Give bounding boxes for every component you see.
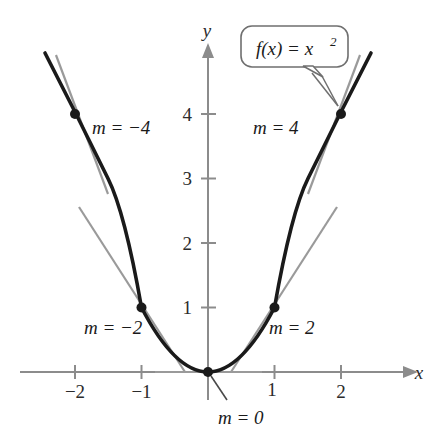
slope-label-m-neg2: m = −2 <box>84 317 143 338</box>
point-x-0-y-0 <box>203 367 213 377</box>
x-tick-label--2: −2 <box>65 381 85 402</box>
slope-label-m-pos4: m = 4 <box>253 117 299 138</box>
point-x--2-y-4 <box>70 109 80 119</box>
slope-label-m-zero: m = 0 <box>218 407 264 428</box>
y-tick-label-3: 3 <box>183 168 193 189</box>
slope-label-m-pos2: m = 2 <box>269 317 315 338</box>
y-tick-label-2: 2 <box>183 233 193 254</box>
x-tick-label-2: 2 <box>336 381 346 402</box>
y-axis-label: y <box>201 20 212 41</box>
x-axis-label: x <box>414 362 424 383</box>
y-tick-label-4: 4 <box>183 104 193 125</box>
callout-function-exponent: 2 <box>330 34 337 49</box>
point-x--1-y-1 <box>137 303 147 313</box>
x-tick-label-1: 1 <box>267 379 277 400</box>
slope-label-m-neg4: m = −4 <box>92 117 151 138</box>
point-x-2-y-4 <box>336 109 346 119</box>
x-tick-label--1: −1 <box>131 381 151 402</box>
callout-function-text: f(x) = x <box>256 38 314 60</box>
point-x-1-y-1 <box>270 303 280 313</box>
y-tick-label-1: 1 <box>183 297 193 318</box>
function-graph-figure: −2 −1 1 2 1 2 3 4 x y m = −4 m = −2 m = … <box>0 0 434 435</box>
